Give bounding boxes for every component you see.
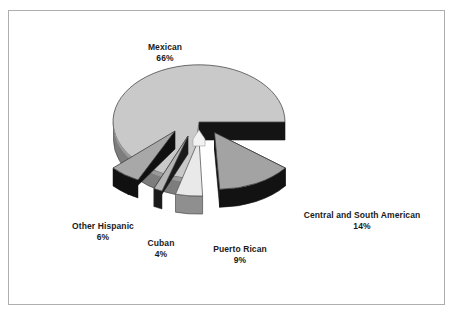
slice-group-central <box>215 133 286 208</box>
pie-label-central-name: Central and South American <box>274 210 450 221</box>
pie-label-cuban-name: Cuban <box>138 238 184 249</box>
slice-side-puerto <box>176 194 203 214</box>
pie-label-central-and-south-american: Central and South American 14% <box>274 210 450 231</box>
pie-label-puerto-name: Puerto Rican <box>205 244 275 255</box>
pie-label-puerto-value: 9% <box>205 255 275 266</box>
slice-inner-wall-mexican <box>199 122 285 140</box>
pie-label-mexican-name: Mexican <box>131 42 199 53</box>
slice-side-cuban-arc <box>154 189 162 210</box>
pie-label-mexican: Mexican 66% <box>131 42 199 63</box>
pie-label-puerto-rican: Puerto Rican 9% <box>205 244 275 265</box>
pie-label-cuban: Cuban 4% <box>138 238 184 259</box>
pie-label-mexican-value: 66% <box>131 53 199 64</box>
pie-label-cuban-value: 4% <box>138 249 184 260</box>
pie-label-other-hispanic: Other Hispanic 6% <box>63 221 143 242</box>
pie-label-central-value: 14% <box>274 221 450 232</box>
pie-label-other-name: Other Hispanic <box>63 221 143 232</box>
pie-chart-graphic <box>0 0 459 321</box>
chart-canvas: Mexican 66% Central and South American 1… <box>0 0 459 321</box>
pie-label-other-value: 6% <box>63 232 143 243</box>
